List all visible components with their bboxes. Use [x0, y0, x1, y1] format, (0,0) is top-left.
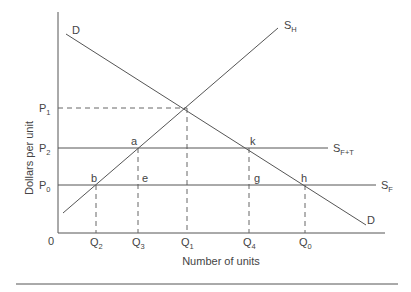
price-label-p0: P0: [39, 179, 51, 194]
home-supply-label: SH: [284, 19, 297, 34]
y-axis-label: Dollars per unit: [23, 121, 35, 195]
sf-label: SF: [381, 179, 393, 194]
demand-curve: [66, 34, 366, 225]
quantity-label-q4: Q4: [243, 236, 256, 251]
price-label-p2: P2: [39, 142, 51, 157]
quantity-label-q2: Q2: [90, 236, 103, 251]
sf-plus-t-label: SF+T: [333, 142, 354, 157]
demand-label-top: D: [72, 24, 80, 36]
point-h-label: h: [301, 172, 307, 184]
x-axis-label: Number of units: [182, 255, 260, 267]
point-a-label: a: [131, 135, 138, 147]
demand-label-bottom: D: [367, 214, 375, 226]
price-label-p1: P1: [39, 102, 51, 117]
origin-label: 0: [48, 235, 54, 247]
point-b-label: b: [91, 172, 97, 184]
point-g-label: g: [254, 172, 260, 184]
point-e-label: e: [142, 172, 148, 184]
quantity-label-q3: Q3: [132, 236, 145, 251]
quantity-label-q1: Q1: [181, 236, 194, 251]
point-k-label: k: [250, 135, 256, 147]
quantity-label-q0: Q0: [299, 236, 312, 251]
tariff-diagram: Dollars per unit Number of units 0 P1 P2…: [0, 0, 411, 292]
